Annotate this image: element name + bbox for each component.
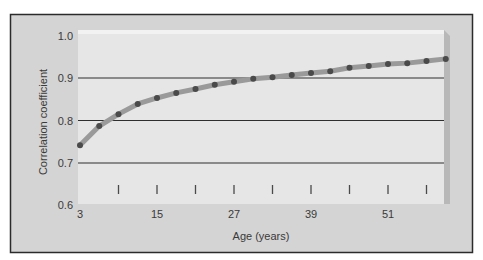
y-tick-label: 0.9 [58,72,73,84]
y-axis-label: Correlation coefficient [37,69,49,175]
data-point-marker [173,90,179,96]
x-tick-label: 27 [228,208,240,220]
data-point-marker [96,123,102,129]
data-point-marker [193,86,199,92]
data-point-marker [212,82,218,88]
y-tick-label: 0.6 [58,199,73,211]
data-point-marker [289,72,295,78]
x-tick-label: 15 [151,208,163,220]
chart: 0.60.70.80.91.0 315273951 Correlation co… [0,0,483,260]
data-point-marker [404,60,410,66]
data-point-marker [250,76,256,82]
x-tick-label: 39 [305,208,317,220]
data-point-marker [308,70,314,76]
data-point-marker [327,68,333,74]
data-point-marker [231,79,237,85]
y-tick-label: 1.0 [58,30,73,42]
plot-panel [78,30,450,204]
data-point-marker [366,63,372,69]
x-axis-label: Age (years) [233,230,290,242]
x-tick-label: 51 [382,208,394,220]
data-point-marker [385,61,391,67]
data-point-marker [347,65,353,71]
data-point-marker [154,95,160,101]
data-point-marker [443,56,449,62]
data-point-marker [424,58,430,64]
data-point-marker [135,101,141,107]
y-tick-label: 0.7 [58,157,73,169]
data-point-marker [270,74,276,80]
data-point-marker [116,111,122,117]
y-tick-label: 0.8 [58,115,73,127]
x-tick-label: 3 [77,208,83,220]
data-point-marker [77,142,83,148]
line-chart-svg: 0.60.70.80.91.0 315273951 Correlation co… [0,0,483,260]
